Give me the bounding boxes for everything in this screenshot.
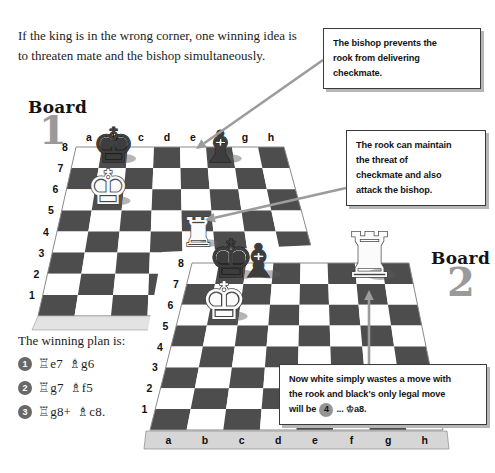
svg-text:3: 3 <box>152 361 158 373</box>
piece-shadow <box>259 270 281 278</box>
svg-text:d: d <box>164 131 170 143</box>
black-king-b8: ♚ <box>92 117 135 173</box>
piece-shadow <box>108 197 131 206</box>
board-2-number: 2 <box>447 262 475 302</box>
move-number-badge: 2 <box>18 381 32 395</box>
callout-text-line: The bishop prevents the <box>333 36 471 51</box>
board-2-letter-strip <box>144 431 449 449</box>
callout-text-line: attack the bishop. <box>356 183 476 198</box>
arrow-callout-bishop <box>196 60 323 149</box>
callout-text-line: the threat of <box>356 153 476 168</box>
white-move: ♖g7 <box>38 380 64 396</box>
svg-text:h: h <box>268 131 274 143</box>
intro-line-1: If the king is in the wrong corner, one … <box>18 26 297 46</box>
white-rook-e4: ♜ <box>180 209 216 255</box>
svg-text:2: 2 <box>34 268 40 280</box>
svg-text:7: 7 <box>57 162 63 174</box>
svg-text:b: b <box>202 434 208 446</box>
piece-shadow <box>366 269 396 280</box>
svg-text:b: b <box>112 131 118 143</box>
callout-move-suffix: ... ♔a8. <box>336 402 366 417</box>
book-page: If the king is in the wrong corner, one … <box>0 0 495 473</box>
plan-move-row: 2 ♖g7 ♗f5 <box>18 380 125 396</box>
callout-text-line: checkmate. <box>333 66 471 81</box>
black-move: ♗g6 <box>69 356 95 372</box>
svg-text:d: d <box>275 434 281 446</box>
callout-text-line: the rook and black's only legal move <box>289 387 477 402</box>
callout-text-line: checkmate and also <box>356 168 476 183</box>
winning-plan: The winning plan is: 1 ♖e7 ♗g6 2 ♖g7 ♗f5… <box>18 333 125 428</box>
white-king-b6: ♚ <box>201 271 248 331</box>
black-king-b8: ♚ <box>208 229 255 289</box>
svg-text:c: c <box>239 434 245 446</box>
svg-text:4: 4 <box>43 226 49 238</box>
intro-paragraph: If the king is in the wrong corner, one … <box>18 26 297 66</box>
callout-text-line: Now white simply wastes a move with <box>289 372 477 387</box>
move-number-badge: 1 <box>18 357 32 371</box>
plan-title: The winning plan is: <box>18 333 125 349</box>
white-rook-g8: ♜ <box>342 219 398 292</box>
callout-text-line: The rook can maintain <box>356 138 476 153</box>
white-move: ♖g8+ <box>38 404 71 420</box>
plan-move-row: 3 ♖g8+ ♗c8. <box>18 404 125 420</box>
piece-shadow <box>221 155 242 163</box>
callout-rook-threat: The rook can maintain the threat of chec… <box>346 130 486 206</box>
svg-text:3: 3 <box>38 247 44 259</box>
board-1-front-edge <box>32 316 334 330</box>
svg-text:5: 5 <box>48 204 54 216</box>
svg-text:g: g <box>385 434 391 446</box>
plan-move-row: 1 ♖e7 ♗g6 <box>18 356 125 372</box>
board-2-file-labels: abcdefgh <box>165 434 428 446</box>
black-bishop-f8: ♝ <box>200 121 239 172</box>
svg-text:h: h <box>421 434 427 446</box>
callout-text-line: will be 4 ... ♔a8. <box>289 402 477 417</box>
svg-text:g: g <box>242 131 248 143</box>
svg-text:c: c <box>138 131 144 143</box>
arrow-callout-waiting <box>364 290 374 364</box>
move-number-badge: 4 <box>319 403 333 417</box>
intro-line-2: to threaten mate and the bishop simultan… <box>18 46 297 66</box>
board-2-rank-labels: 87654321 <box>141 257 184 415</box>
move-number-badge: 3 <box>18 405 32 419</box>
black-move: ♗f5 <box>70 380 93 396</box>
svg-text:4: 4 <box>157 341 163 353</box>
board-1-file-labels: abcdefgh <box>86 131 274 143</box>
svg-text:f: f <box>350 434 354 446</box>
board-1-squares <box>38 147 330 316</box>
black-move: ♗c8. <box>77 404 105 420</box>
arrow-callout-rook <box>205 188 346 223</box>
callout-bishop-prevents: The bishop prevents the rook from delive… <box>323 28 481 89</box>
svg-text:a: a <box>165 434 171 446</box>
svg-text:e: e <box>312 434 318 446</box>
svg-text:6: 6 <box>168 299 174 311</box>
svg-text:e: e <box>190 131 196 143</box>
svg-text:5: 5 <box>162 320 168 332</box>
piece-shadow <box>200 240 219 247</box>
svg-text:7: 7 <box>173 278 179 290</box>
callout-move-prefix: will be <box>289 402 316 417</box>
piece-shadow <box>113 154 136 163</box>
piece-shadow <box>223 312 248 321</box>
svg-text:2: 2 <box>147 382 153 394</box>
callout-text-line: rook from delivering <box>333 51 471 66</box>
black-bishop-c8: ♝ <box>238 234 279 288</box>
board-1-number: 1 <box>39 110 67 150</box>
svg-text:1: 1 <box>141 403 147 415</box>
piece-shadow <box>230 270 255 279</box>
svg-text:1: 1 <box>29 289 35 301</box>
white-king-b6: ♚ <box>86 159 129 215</box>
svg-text:8: 8 <box>178 257 184 269</box>
svg-text:f: f <box>217 131 221 143</box>
svg-text:a: a <box>86 131 92 143</box>
callout-waiting-move: Now white simply wastes a move with the … <box>279 364 487 425</box>
white-move: ♖e7 <box>38 356 63 372</box>
board-1-rank-labels: 87654321 <box>29 141 68 301</box>
svg-text:6: 6 <box>53 183 59 195</box>
